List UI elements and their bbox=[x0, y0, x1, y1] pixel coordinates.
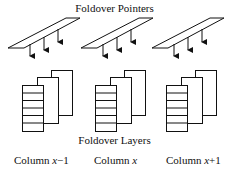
pointer-plane-column-2 bbox=[81, 18, 153, 56]
column-label-x: Column x bbox=[94, 155, 137, 166]
foldover-pointers-title: Foldover Pointers bbox=[0, 3, 229, 14]
layer-stack-column-1 bbox=[23, 71, 73, 132]
pointer-plane-column-3 bbox=[152, 18, 224, 56]
pointer-plane-column-1 bbox=[8, 18, 80, 56]
layer-stack-column-2 bbox=[96, 71, 146, 132]
column-label-x-plus-1: Column x+1 bbox=[166, 155, 221, 166]
column-label-x-minus-1: Column x−1 bbox=[14, 155, 69, 166]
layer-stack-column-3 bbox=[167, 71, 217, 132]
foldover-layers-title: Foldover Layers bbox=[0, 135, 229, 146]
